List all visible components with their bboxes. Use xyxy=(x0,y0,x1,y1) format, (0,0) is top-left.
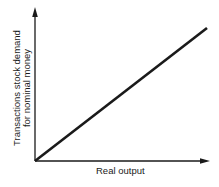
chart: Real output Transactions stock demand fo… xyxy=(0,0,219,187)
y-axis-arrow-icon xyxy=(32,7,38,17)
x-axis-arrow-icon xyxy=(200,158,210,164)
y-axis-label-line-2: for nominal money xyxy=(21,49,32,127)
x-axis-label: Real output xyxy=(96,165,145,176)
series-line xyxy=(35,28,207,161)
